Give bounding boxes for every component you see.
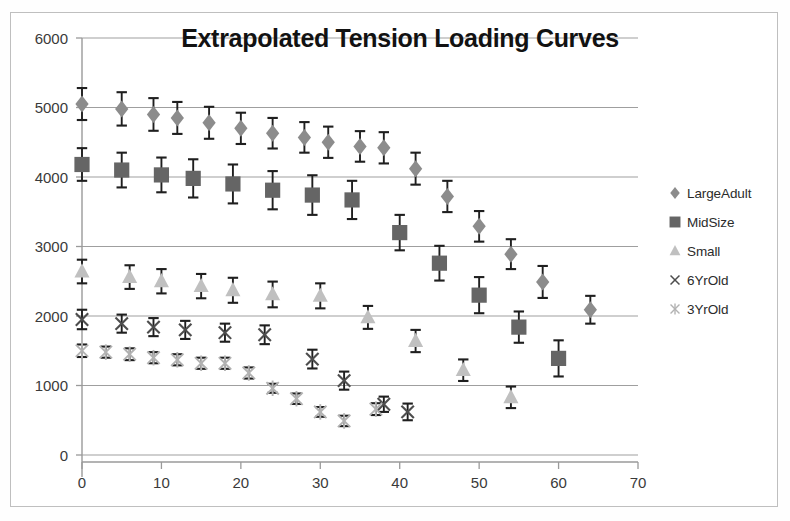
marker-diamond <box>202 114 215 131</box>
marker-diamond <box>298 129 311 146</box>
marker-triangle <box>456 362 471 376</box>
marker-diamond <box>409 160 422 177</box>
marker-diamond <box>473 218 486 235</box>
series-largeadult <box>75 88 597 324</box>
series-midsize <box>74 148 566 376</box>
x-axis-tick-label: 30 <box>312 474 329 491</box>
marker-diamond <box>441 188 454 205</box>
legend-marker-square-icon <box>668 215 682 229</box>
marker-square <box>511 320 526 335</box>
legend-item-largeadult[interactable]: LargeAdult <box>668 186 780 200</box>
marker-square <box>225 176 240 191</box>
marker-diamond <box>353 138 366 155</box>
y-axis-tick-label: 6000 <box>35 30 68 47</box>
marker-square <box>74 157 89 172</box>
marker-triangle <box>74 263 89 277</box>
y-axis-tick-label: 4000 <box>35 169 68 186</box>
marker-triangle <box>313 288 328 302</box>
legend-item-small[interactable]: Small <box>668 244 780 258</box>
marker-diamond <box>670 187 680 199</box>
chart-legend: LargeAdultMidSizeSmall6YrOld3YrOld <box>668 186 780 316</box>
chart-title: Extrapolated Tension Loading Curves <box>140 24 660 53</box>
legend-marker-diamond-icon <box>668 186 682 200</box>
marker-square <box>114 162 129 177</box>
x-axis-tick-label: 0 <box>78 474 86 491</box>
marker-diamond <box>266 125 279 142</box>
legend-item-label: 3YrOld <box>687 302 728 317</box>
marker-triangle <box>225 282 240 296</box>
marker-triangle <box>154 273 169 287</box>
marker-square <box>432 256 447 271</box>
marker-diamond <box>504 246 517 263</box>
legend-marker-x-icon <box>668 273 682 287</box>
marker-triangle <box>194 278 209 292</box>
marker-diamond <box>234 120 247 137</box>
legend-item-label: 6YrOld <box>687 273 728 288</box>
legend-item-label: LargeAdult <box>687 186 751 201</box>
x-axis-tick-label: 50 <box>471 474 488 491</box>
marker-square <box>670 217 681 228</box>
legend-item-3yrold[interactable]: 3YrOld <box>668 302 780 316</box>
marker-triangle <box>670 245 681 255</box>
marker-square <box>472 288 487 303</box>
marker-diamond <box>171 109 184 126</box>
marker-square <box>551 351 566 366</box>
legend-item-6yrold[interactable]: 6YrOld <box>668 273 780 287</box>
x-axis-tick-label: 20 <box>233 474 250 491</box>
series-6yrold <box>76 310 414 421</box>
x-axis-tick-label: 40 <box>391 474 408 491</box>
x-axis-tick-label: 60 <box>550 474 567 491</box>
marker-square <box>305 187 320 202</box>
marker-triangle <box>122 269 137 283</box>
marker-diamond <box>377 139 390 156</box>
legend-item-label: Small <box>687 244 720 259</box>
marker-triangle <box>265 286 280 300</box>
chart-figure: 0100020003000400050006000010203040506070… <box>0 0 790 521</box>
marker-square <box>344 192 359 207</box>
marker-square <box>265 183 280 198</box>
y-axis-tick-label: 1000 <box>35 377 68 394</box>
x-axis-tick-label: 10 <box>153 474 170 491</box>
y-axis-tick-label: 5000 <box>35 99 68 116</box>
marker-square <box>186 171 201 186</box>
x-axis-tick-label: 70 <box>630 474 647 491</box>
y-axis-tick-label: 0 <box>60 447 68 464</box>
marker-diamond <box>147 106 160 123</box>
legend-item-midsize[interactable]: MidSize <box>668 215 780 229</box>
y-axis-tick-label: 2000 <box>35 308 68 325</box>
legend-marker-triangle-icon <box>668 244 682 258</box>
marker-square <box>392 225 407 240</box>
marker-triangle <box>408 333 423 347</box>
marker-diamond <box>75 96 88 113</box>
marker-triangle <box>503 389 518 403</box>
marker-diamond <box>115 100 128 117</box>
legend-item-label: MidSize <box>687 215 734 230</box>
marker-square <box>154 167 169 182</box>
marker-diamond <box>322 134 335 151</box>
legend-marker-asterisk-icon <box>668 302 682 316</box>
marker-diamond <box>536 273 549 290</box>
y-axis-tick-label: 3000 <box>35 238 68 255</box>
